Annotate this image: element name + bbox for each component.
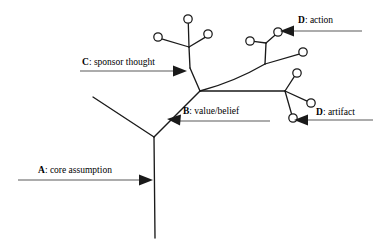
annotation-key-d-action: D	[298, 15, 305, 25]
leaf-node-action-1	[246, 37, 254, 45]
leaf-node-c-3	[204, 30, 212, 38]
leaf-node-artifact-1	[293, 69, 301, 77]
leaf-node-artifact-3	[289, 114, 297, 122]
arrowhead-d-action-icon	[280, 26, 294, 37]
twig-c-1	[162, 39, 189, 47]
annotation-label-c: C: sponsor thought	[82, 58, 155, 68]
edge-b-to-c	[190, 68, 200, 91]
diagram-canvas: A: core assumption B: value/belief C: sp…	[0, 0, 390, 246]
twig-artifact-3	[285, 91, 292, 114]
arrowhead-a-icon	[139, 175, 153, 186]
tree-diagram-graphic	[0, 0, 390, 246]
annotation-text-d-artifact: artifact	[328, 107, 355, 117]
tree-twigs	[162, 23, 308, 114]
twig-c-3	[189, 37, 206, 47]
annotation-key-a: A	[38, 165, 45, 175]
annotation-text-d-action: action	[310, 15, 333, 25]
annotation-label-a: A: core assumption	[38, 166, 112, 176]
edge-trunk	[154, 137, 155, 238]
edge-c-stem	[189, 47, 190, 68]
edge-root-left	[93, 97, 154, 137]
annotation-key-d-artifact: D	[316, 107, 323, 117]
twig-action-1	[254, 41, 266, 43]
leaf-node-c-2	[184, 15, 192, 23]
twig-action-2	[266, 35, 275, 43]
annotation-label-d-artifact: D: artifact	[316, 108, 355, 118]
annotation-text-c: sponsor thought	[94, 57, 155, 67]
annotation-key-c: C	[82, 57, 89, 67]
edge-right-stem	[265, 43, 266, 64]
annotation-text-a: core assumption	[50, 165, 112, 175]
tree-edges	[93, 43, 285, 238]
leaf-node-action-2	[274, 28, 282, 36]
twig-artifact-1	[285, 76, 295, 91]
edge-b-to-right	[200, 64, 265, 91]
annotation-text-b: value/belief	[194, 106, 239, 116]
annotation-label-b: B: value/belief	[183, 107, 239, 117]
leaf-node-c-1	[154, 33, 162, 41]
annotation-arrow-d-action	[280, 26, 362, 37]
leaf-node-action-3	[299, 48, 307, 56]
arrowhead-c-icon	[173, 66, 187, 77]
annotation-label-d-action: D: action	[298, 16, 333, 26]
leaf-node-artifact-2	[307, 99, 315, 107]
twig-action-3	[265, 54, 299, 64]
annotation-arrow-a	[18, 175, 153, 186]
twig-c-2	[188, 23, 189, 47]
twig-artifact-2	[285, 91, 307, 101]
